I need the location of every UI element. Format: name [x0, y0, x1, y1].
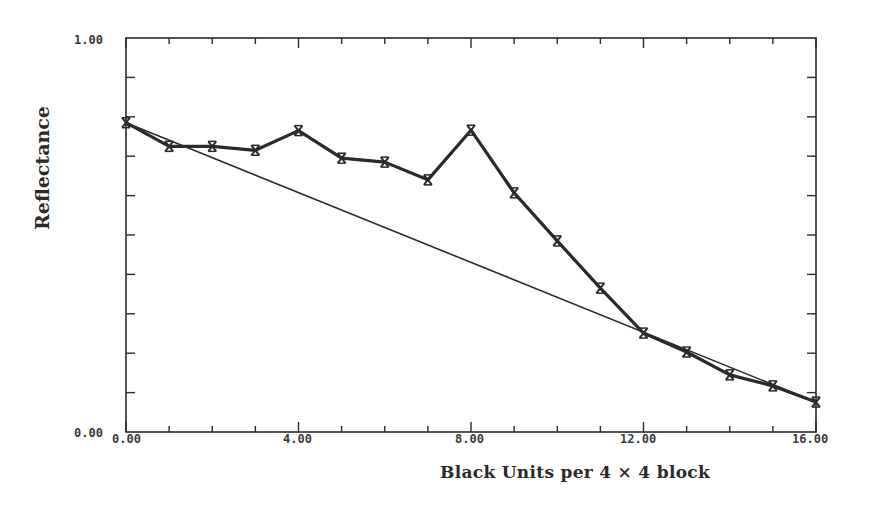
plot-frame [126, 38, 816, 432]
x-marker-icon [596, 283, 604, 293]
y-tick-label-top: 1.00 [74, 33, 103, 47]
x-tick-label-4: 4.00 [283, 432, 312, 446]
y-axis-label: Reflectance [22, 98, 62, 238]
x-marker-icon [553, 236, 561, 246]
x-tick-label-8: 8.00 [455, 432, 484, 446]
x-marker-icon [510, 188, 518, 198]
x-axis-label: Black Units per 4 × 4 block [440, 462, 710, 482]
x-marker-icon [467, 125, 475, 135]
linear-reference-line [126, 123, 816, 402]
y-tick-label-bottom: 0.00 [74, 426, 103, 440]
x-tick-label-0: 0.00 [112, 432, 141, 446]
x-tick-label-16: 16.00 [792, 432, 828, 446]
x-tick-label-12: 12.00 [620, 432, 656, 446]
